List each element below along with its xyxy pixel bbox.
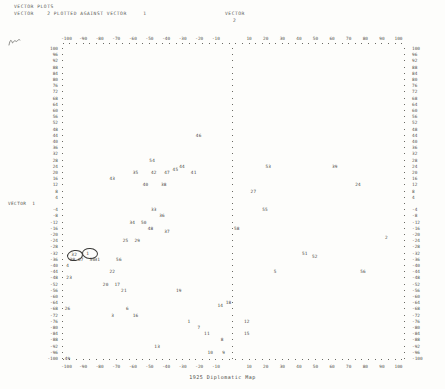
data-point-label: 54 [149,158,155,163]
y-axis-dot-center [232,358,233,359]
y-tick-label-right: -40 [412,263,434,268]
y-tick-label-left: 12 [36,182,58,187]
y-axis-dot-center [232,327,233,328]
x-tick-label-top: 60 [326,36,339,41]
x-tick-label-top: 80 [359,36,372,41]
x-axis-rule-top [322,43,323,44]
y-axis-dot-center [232,284,233,285]
x-axis-rule-bottom [348,359,349,360]
x-axis-rule-bottom [63,359,64,360]
x-axis-rule-top [335,43,336,44]
y-axis-dot-center [232,110,233,111]
x-axis-rule-bottom [361,359,362,360]
x-axis-rule-top [63,43,64,44]
y-tick-label-left: 4 [36,195,58,200]
x-axis-rule-bottom [202,359,203,360]
y-tick-label-right: -12 [412,220,434,225]
data-point-label: 42 [151,170,157,175]
y-axis-dot-center [232,135,233,136]
y-axis-dot-right [404,122,405,123]
y-tick-label-left: 100 [36,46,58,51]
y-tick-label-right: -76 [412,319,434,324]
y-axis-dot-right [404,91,405,92]
y-axis-dot-center [232,222,233,223]
data-point-label: 29 [134,238,140,243]
x-axis-rule-top [209,43,210,44]
x-axis-rule-bottom [255,359,256,360]
y-axis-dot-center [232,271,233,272]
y-tick-label-left: -64 [36,300,58,305]
x-axis-rule-bottom [269,359,270,360]
y-axis-dot-left [62,358,63,359]
y-tick-label-right: -100 [412,356,434,361]
y-axis-dot-left [62,271,63,272]
y-axis-dot-left [62,147,63,148]
y-axis-dot-left [62,191,63,192]
data-point-label: 26 [65,306,71,311]
y-tick-label-right: 48 [412,127,434,132]
x-tick-label-bottom: 50 [309,364,322,369]
y-tick-label-left: 76 [36,83,58,88]
data-point-label: 13 [154,344,160,349]
y-axis-dot-right [404,228,405,229]
y-axis-dot-left [62,327,63,328]
x-axis-rule-top [89,43,90,44]
y-tick-label-right: 4 [412,195,434,200]
x-axis-rule-bottom [288,359,289,360]
y-axis-dot-right [404,79,405,80]
x-axis-rule-top [395,43,396,44]
x-axis-rule-top [255,43,256,44]
y-tick-label-right: 60 [412,108,434,113]
x-axis-rule-bottom [96,359,97,360]
data-point-label: 17 [114,282,120,287]
data-point-label: 4 [66,263,69,268]
y-axis-dot-left [62,197,63,198]
x-axis-rule-bottom [215,359,216,360]
data-point-label: 43 [109,176,115,181]
x-tick-label-bottom: 40 [292,364,305,369]
y-axis-dot-left [62,209,63,210]
y-axis-dot-right [404,116,405,117]
y-tick-label-right: 56 [412,114,434,119]
data-point-label: 23 [66,275,72,280]
y-axis-dot-center [232,141,233,142]
x-axis-rule-bottom [262,359,263,360]
x-tick-label-bottom: -30 [176,364,189,369]
y-axis-dot-left [62,203,63,204]
y-tick-label-right: -32 [412,251,434,256]
y-tick-label-left: 88 [36,65,58,70]
y-tick-label-left: -84 [36,331,58,336]
x-axis-rule-top [262,43,263,44]
y-tick-label-right: -52 [412,282,434,287]
y-tick-label-left: 36 [36,145,58,150]
x-axis-rule-bottom [142,359,143,360]
y-tick-label-right: -88 [412,337,434,342]
x-axis-rule-top [109,43,110,44]
y-tick-label-left: 20 [36,170,58,175]
y-axis-dot-center [232,85,233,86]
x-axis-rule-bottom [149,359,150,360]
data-point-label: 5 [274,269,277,274]
x-tick-label-top: 100 [392,36,405,41]
y-tick-label-left: -92 [36,344,58,349]
y-axis-dot-right [404,141,405,142]
y-tick-label-right: -36 [412,257,434,262]
data-point-label: 56 [360,269,366,274]
y-tick-label-left: -68 [36,306,58,311]
x-axis-rule-top [195,43,196,44]
x-tick-label-top: -60 [126,36,139,41]
y-axis-dot-left [62,352,63,353]
y-axis-dot-center [232,67,233,68]
data-point-label: 27 [251,189,257,194]
data-point-label: 53 [266,164,272,169]
x-axis-rule-bottom [83,359,84,360]
y-axis-dot-right [404,321,405,322]
data-point-label: 6 [126,306,129,311]
x-axis-rule-top [269,43,270,44]
y-axis-dot-left [62,222,63,223]
y-tick-label-right: -4 [412,207,434,212]
y-axis-dot-left [62,253,63,254]
data-point-label: 58 [234,226,240,231]
data-point-label: 46 [196,133,202,138]
y-tick-label-left: -40 [36,263,58,268]
